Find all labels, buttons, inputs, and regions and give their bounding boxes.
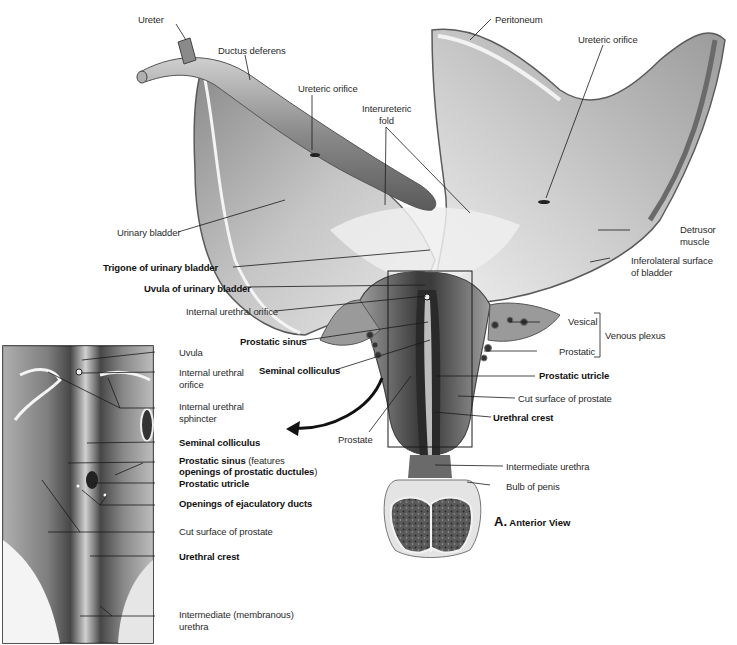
prostatic-ductules-term: openings of prostatic ductules — [179, 466, 314, 477]
label-ureteric-orifice-left: Ureteric orifice — [298, 83, 358, 94]
caption-letter: A. — [494, 514, 507, 529]
figure-caption: A. Anterior View — [494, 514, 570, 529]
inset-label-intermediate-urethra-1: Intermediate (membranous) — [179, 609, 294, 620]
label-trigone: Trigone of urinary bladder — [103, 262, 218, 273]
label-interureteric-fold-2: fold — [379, 115, 394, 126]
label-ductus-deferens: Ductus deferens — [218, 45, 286, 56]
inset-panel — [3, 346, 153, 643]
label-uvula: Uvula of urinary bladder — [144, 283, 251, 294]
prostatic-sinus-term: Prostatic sinus — [179, 455, 246, 466]
inset-label-uvula: Uvula — [179, 347, 203, 358]
label-detrusor-1: Detrusor — [680, 224, 716, 235]
label-venous-plexus: Venous plexus — [605, 330, 666, 341]
prostatic-sinus-close-paren: ) — [314, 466, 317, 477]
label-prostate: Prostate — [338, 434, 373, 445]
inset-label-internal-urethral-sphincter-2: sphincter — [179, 413, 217, 424]
label-urinary-bladder: Urinary bladder — [117, 227, 180, 238]
label-interureteric-fold-1: Interureteric — [362, 103, 411, 114]
label-bulb-of-penis: Bulb of penis — [506, 481, 560, 492]
inset-label-internal-urethral-sphincter-1: Internal urethral — [179, 401, 244, 412]
label-prostatic-sinus: Prostatic sinus — [240, 336, 307, 347]
label-ureter: Ureter — [138, 14, 164, 25]
illustration — [0, 0, 737, 645]
label-vesical: Vesical — [568, 316, 597, 327]
label-urethral-crest: Urethral crest — [493, 412, 553, 423]
inset-label-openings-ejaculatory-ducts: Openings of ejaculatory ducts — [179, 498, 312, 509]
inset-label-internal-urethral-orifice-2: orifice — [179, 379, 204, 390]
inset-label-internal-urethral-orifice-1: Internal urethral — [179, 367, 244, 378]
inset-label-cut-surface-prostate: Cut surface of prostate — [179, 526, 273, 537]
inset-label-urethral-crest: Urethral crest — [179, 551, 239, 562]
inset-label-intermediate-urethra-2: urethra — [179, 621, 208, 632]
inset-label-prostatic-utricle: Prostatic utricle — [179, 478, 249, 489]
label-intermediate-urethra: Intermediate urethra — [506, 461, 590, 472]
inset-label-seminal-colliculus: Seminal colliculus — [179, 437, 260, 448]
label-detrusor-2: muscle — [680, 236, 710, 247]
label-cut-surface-prostate: Cut surface of prostate — [518, 393, 612, 404]
label-inferolateral-1: Inferolateral surface — [631, 255, 713, 266]
label-prostatic: Prostatic — [559, 346, 595, 357]
curved-arrow — [295, 378, 382, 428]
label-internal-urethral-orifice: Internal urethral orifice — [186, 306, 278, 317]
inset-label-prostatic-sinus-1: Prostatic sinus (features — [179, 455, 285, 466]
label-peritoneum: Peritoneum — [495, 14, 543, 25]
label-seminal-colliculus: Seminal colliculus — [259, 365, 340, 376]
anatomy-figure: Ureter Ductus deferens Ureteric orifice … — [0, 0, 737, 645]
label-ureteric-orifice-right: Ureteric orifice — [578, 34, 638, 45]
caption-text: Anterior View — [509, 517, 570, 528]
prostatic-sinus-note: (features — [246, 455, 285, 466]
label-prostatic-utricle: Prostatic utricle — [539, 370, 609, 381]
inset-label-prostatic-sinus-2: openings of prostatic ductules) — [179, 466, 317, 477]
label-inferolateral-2: of bladder — [631, 267, 672, 278]
